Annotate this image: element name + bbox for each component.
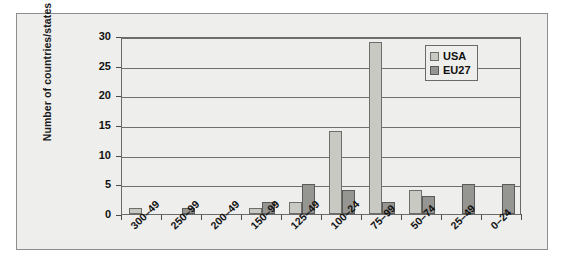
x-tick-mark <box>401 215 402 220</box>
x-tick-mark <box>321 215 322 220</box>
x-tick-mark <box>361 215 362 220</box>
figure-container: Number of countries/states 051015202530 … <box>0 0 564 261</box>
legend-item-usa: USA <box>430 49 471 63</box>
x-tick-mark <box>241 215 242 220</box>
legend-label-usa: USA <box>443 51 466 62</box>
y-tick-label: 5 <box>85 179 111 190</box>
legend-swatch-usa-icon <box>430 52 439 61</box>
legend-swatch-eu27-icon <box>430 66 439 75</box>
legend-item-eu27: EU27 <box>430 63 471 77</box>
x-tick-mark <box>161 215 162 220</box>
chart-panel: Number of countries/states 051015202530 … <box>16 13 548 250</box>
x-tick-mark <box>281 215 282 220</box>
y-tick-label: 15 <box>85 120 111 131</box>
bar-usa-5 <box>329 131 342 214</box>
y-tick-label: 0 <box>85 209 111 220</box>
x-tick-mark <box>521 215 522 220</box>
y-tick-label: 25 <box>85 61 111 72</box>
y-tick-label: 30 <box>85 31 111 42</box>
bar-usa-6 <box>369 42 382 214</box>
chart-legend: USA EU27 <box>425 45 478 81</box>
x-tick-mark <box>121 215 122 220</box>
y-tick-label: 20 <box>85 90 111 101</box>
x-tick-mark <box>201 215 202 220</box>
x-tick-mark <box>441 215 442 220</box>
legend-label-eu27: EU27 <box>443 65 471 76</box>
x-tick-mark <box>481 215 482 220</box>
y-tick-label: 10 <box>85 150 111 161</box>
y-axis-title: Number of countries/states <box>41 0 53 162</box>
